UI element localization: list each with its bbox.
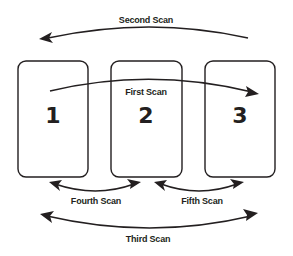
fourth-scan-arrow: Fourth Scan [49, 179, 141, 206]
box-2: 2 [111, 61, 182, 177]
arrowhead-right-icon [230, 179, 244, 189]
arrowhead-right-icon [127, 179, 141, 189]
scan-diagram: 1 2 3 Second Scan First Scan Fourth Scan… [0, 0, 293, 256]
third-scan-label: Third Scan [126, 234, 171, 244]
fifth-scan-arrow: Fifth Scan [154, 179, 244, 206]
box-3: 3 [205, 61, 275, 177]
second-scan-arrow: Second Scan [39, 15, 248, 43]
first-scan-label: First Scan [125, 87, 167, 97]
third-scan-arrow: Third Scan [40, 209, 258, 244]
box-2-label: 2 [138, 103, 153, 128]
box-1-label: 1 [45, 103, 60, 128]
fifth-scan-label: Fifth Scan [181, 196, 223, 206]
second-scan-label: Second Scan [119, 15, 173, 25]
box-1: 1 [18, 61, 88, 177]
box-3-label: 3 [232, 103, 247, 128]
fourth-scan-label: Fourth Scan [71, 196, 121, 206]
arrowhead-right-icon [243, 209, 258, 221]
